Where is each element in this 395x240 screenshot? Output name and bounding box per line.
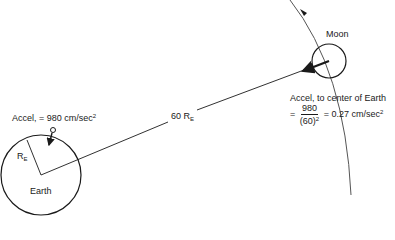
formula-denominator: (60)2 bbox=[300, 115, 319, 126]
moon-label-text: Moon bbox=[326, 29, 349, 39]
earth-label-text: Earth bbox=[30, 186, 52, 196]
moon-accel-formula: = 980 (60)2 = 0.27 cm/sec2 bbox=[290, 104, 383, 126]
earth-radius-line bbox=[27, 140, 41, 175]
earth-accel-exp: 2 bbox=[93, 113, 96, 119]
moon-label: Moon bbox=[326, 30, 349, 39]
earth-accel-text: Accel, = 980 cm/sec bbox=[12, 113, 93, 123]
earth-radius-sub: E bbox=[24, 156, 28, 162]
distance-label: 60 RE bbox=[171, 112, 194, 122]
formula-equals: = bbox=[290, 109, 295, 119]
earth-label: Earth bbox=[30, 187, 52, 196]
moon-accel-text: Accel, to center of Earth bbox=[290, 93, 386, 103]
falling-object-icon bbox=[51, 128, 56, 133]
earth-accel-arrow bbox=[49, 133, 52, 145]
formula-result-exp: 2 bbox=[380, 109, 383, 115]
formula-numerator: 980 bbox=[301, 104, 318, 115]
moon-accel-label: Accel, to center of Earth bbox=[290, 94, 386, 103]
formula-denominator-base: (60) bbox=[300, 116, 316, 126]
formula-result: = 0.27 cm/sec bbox=[324, 109, 380, 119]
earth-accel-label: Accel, = 980 cm/sec2 bbox=[12, 113, 96, 123]
formula-denominator-exp: 2 bbox=[316, 116, 319, 122]
distance-text: 60 R bbox=[171, 111, 190, 121]
moon-accel-arrow bbox=[303, 61, 329, 71]
distance-sub: E bbox=[190, 116, 194, 122]
earth-radius-label: RE bbox=[17, 152, 28, 162]
formula-fraction: 980 (60)2 bbox=[300, 104, 319, 126]
earth-moon-line-a bbox=[41, 122, 168, 175]
